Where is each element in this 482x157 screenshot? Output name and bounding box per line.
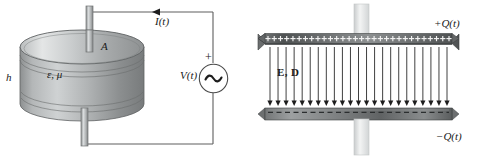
figure-root: h ε, μ A I(t) V(t) + [0, 0, 482, 157]
height-label: h [6, 72, 12, 83]
bottom-plate-right-tip [452, 108, 459, 120]
current-label: I(t) [155, 16, 169, 27]
bottom-terminal-post [354, 119, 369, 155]
field-cross-section-panel: +Q(t) −Q(t) E, D [241, 0, 482, 157]
bottom-plate-left-tip [258, 108, 265, 120]
negative-charge-label: −Q(t) [436, 131, 462, 142]
material-label: ε, μ [47, 69, 62, 80]
top-post-front-segment [86, 30, 93, 52]
dielectric-top-face [20, 30, 144, 64]
ac-voltage-source [198, 63, 229, 94]
voltage-label: V(t) [180, 70, 197, 81]
area-label: A [101, 41, 108, 52]
bottom-electrode-post [81, 108, 88, 146]
positive-charge-label: +Q(t) [434, 18, 460, 29]
capacitor-circuit-panel: h ε, μ A I(t) V(t) + [0, 0, 241, 157]
polarity-plus-label: + [205, 51, 212, 63]
field-label: E, D [277, 67, 299, 78]
